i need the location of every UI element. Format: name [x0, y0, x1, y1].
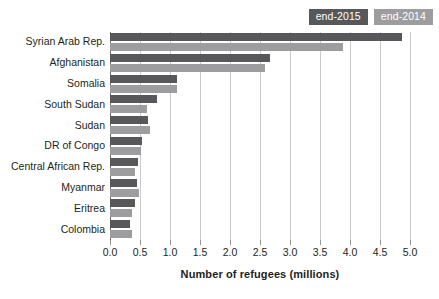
x-tick-label: 3.5: [313, 246, 328, 259]
bar-group: [110, 136, 410, 157]
bar-end-2014: [110, 209, 132, 217]
x-tickmark: [200, 240, 201, 245]
bar-end-2015: [110, 33, 402, 41]
bar-end-2014: [110, 105, 147, 113]
bar-groups: [110, 32, 410, 240]
x-axis-tick-labels: 0.00.51.01.52.02.53.03.54.04.55.0: [110, 246, 410, 262]
x-tick-label: 4.5: [373, 246, 388, 259]
bar-end-2015: [110, 199, 135, 207]
x-tickmark: [350, 240, 351, 245]
x-tickmark: [260, 240, 261, 245]
x-tick-label: 5.0: [403, 246, 418, 259]
bar-end-2015: [110, 137, 142, 145]
bar-end-2015: [110, 54, 270, 62]
x-tickmark: [290, 240, 291, 245]
bar-end-2014: [110, 230, 132, 238]
bar-group: [110, 157, 410, 178]
bar-end-2014: [110, 189, 139, 197]
bar-group: [110, 198, 410, 219]
category-axis-labels: Syrian Arab Rep.AfghanistanSomaliaSouth …: [0, 32, 105, 240]
x-tick-label: 0.5: [133, 246, 148, 259]
category-label: DR of Congo: [0, 139, 105, 151]
x-tick-label: 0.0: [103, 246, 118, 259]
bar-end-2014: [110, 43, 343, 51]
gridline: [410, 32, 411, 240]
category-label: Eritrea: [0, 202, 105, 214]
bar-group: [110, 115, 410, 136]
bar-end-2014: [110, 85, 177, 93]
x-tick-label: 2.5: [253, 246, 268, 259]
bar-end-2015: [110, 220, 130, 228]
bar-end-2014: [110, 168, 135, 176]
plot-area: [110, 32, 410, 240]
category-label: Sudan: [0, 119, 105, 131]
category-label: Somalia: [0, 77, 105, 89]
x-tick-label: 1.5: [193, 246, 208, 259]
x-tick-label: 2.0: [223, 246, 238, 259]
bar-group: [110, 74, 410, 95]
x-tick-label: 1.0: [163, 246, 178, 259]
bar-end-2014: [110, 147, 141, 155]
bar-group: [110, 178, 410, 199]
legend-item-end-2014: end-2014: [374, 9, 433, 25]
bar-group: [110, 53, 410, 74]
category-label: Colombia: [0, 223, 105, 235]
x-tick-label: 4.0: [343, 246, 358, 259]
bar-group: [110, 219, 410, 240]
bar-end-2015: [110, 75, 177, 83]
category-label: Central African Rep.: [0, 160, 105, 172]
chart-legend: end-2015 end-2014: [309, 9, 433, 25]
bar-end-2015: [110, 179, 137, 187]
category-label: Myanmar: [0, 181, 105, 193]
x-tickmark: [320, 240, 321, 245]
x-tick-label: 3.0: [283, 246, 298, 259]
bar-end-2015: [110, 116, 148, 124]
legend-item-end-2015: end-2015: [309, 9, 368, 25]
category-label: South Sudan: [0, 98, 105, 110]
bar-end-2015: [110, 158, 138, 166]
x-tickmark: [380, 240, 381, 245]
category-label: Syrian Arab Rep.: [0, 35, 105, 47]
x-tickmark: [230, 240, 231, 245]
x-tickmark: [110, 240, 111, 245]
bar-end-2014: [110, 64, 265, 72]
category-label: Afghanistan: [0, 56, 105, 68]
x-tickmark: [410, 240, 411, 245]
bar-group: [110, 94, 410, 115]
refugee-bar-chart: end-2015 end-2014 Syrian Arab Rep.Afghan…: [0, 0, 439, 299]
x-axis-title: Number of refugees (millions): [110, 268, 410, 280]
x-tickmark: [170, 240, 171, 245]
bar-end-2014: [110, 126, 150, 134]
x-tickmark: [140, 240, 141, 245]
bar-group: [110, 32, 410, 53]
bar-end-2015: [110, 95, 157, 103]
